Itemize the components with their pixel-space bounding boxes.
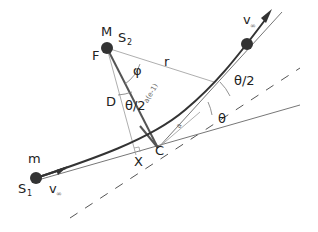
- label-a-e-minus-1: a(e-1): [142, 82, 160, 104]
- body-outgoing: [241, 38, 253, 50]
- label-f: F: [92, 48, 99, 63]
- radius-line: [107, 48, 214, 82]
- theta-arc: [208, 102, 212, 115]
- arrow-outgoing: [261, 9, 272, 23]
- body-s2: [101, 42, 113, 54]
- body-s1: [30, 172, 42, 184]
- incoming-asymptote: [38, 105, 300, 180]
- label-v-inf-in-sub: ∞: [56, 190, 62, 198]
- label-s2-sub: 2: [127, 38, 132, 47]
- label-m-lower: m: [28, 151, 41, 166]
- label-theta-half-right: θ/2: [234, 73, 255, 88]
- label-x: X: [134, 154, 143, 169]
- label-s1: S: [18, 181, 26, 196]
- theta-half-arc-right: [220, 82, 230, 96]
- hyperbola-diagram: M S 2 F φ r D θ/2 a(e-1) a θ/2 θ C X m S…: [0, 0, 318, 232]
- label-m-upper: M: [101, 24, 112, 39]
- dashed-line: [70, 68, 300, 218]
- label-c: C: [155, 143, 164, 158]
- label-d: D: [106, 94, 116, 109]
- label-v-inf-out-sub: ∞: [250, 22, 256, 30]
- label-r: r: [164, 54, 170, 69]
- label-phi: φ: [133, 63, 142, 78]
- label-s2: S: [118, 30, 126, 45]
- line-c-perp: [158, 112, 200, 148]
- label-s1-sub: 1: [27, 189, 32, 198]
- label-theta: θ: [218, 111, 226, 126]
